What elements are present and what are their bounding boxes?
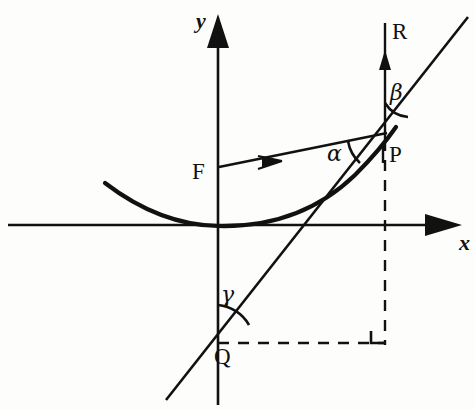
point-label-F: F — [192, 160, 205, 183]
right-angle-marker — [371, 331, 385, 343]
angle-label-alpha: α — [327, 143, 342, 165]
point-label-Q: Q — [214, 345, 231, 368]
diagram-svg — [0, 0, 475, 410]
ray-label-R: R — [392, 20, 407, 43]
beta-arc — [385, 103, 408, 117]
angle-label-gamma: γ — [221, 284, 234, 306]
point-label-P: P — [389, 143, 402, 166]
figure-canvas: y x F P Q R α β γ — [0, 0, 475, 410]
parabola-curve — [105, 127, 396, 226]
angle-label-beta: β — [390, 82, 403, 104]
tangent-line — [166, 17, 468, 400]
y-axis-label: y — [196, 10, 206, 32]
x-axis-label: x — [459, 232, 470, 254]
